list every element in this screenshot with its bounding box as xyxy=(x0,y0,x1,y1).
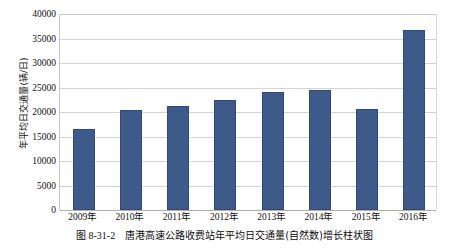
bar-slot xyxy=(202,14,249,210)
x-tick-label: 2011年 xyxy=(154,211,201,223)
bar[interactable] xyxy=(167,106,189,210)
bar-slot xyxy=(344,14,391,210)
x-tick-label: 2010年 xyxy=(106,211,153,223)
figure-number: 图 8-31-2 xyxy=(76,230,115,241)
y-axis-tick-labels: 4000035000300002500020000150001000050000 xyxy=(10,0,56,224)
x-tick-label: 2016年 xyxy=(390,211,437,223)
x-tick-label: 2013年 xyxy=(248,211,295,223)
y-tick-label: 10000 xyxy=(10,156,56,166)
bar[interactable] xyxy=(403,30,425,210)
plot-box xyxy=(59,14,437,210)
y-tick-label: 30000 xyxy=(10,58,56,68)
bar-slot xyxy=(391,14,438,210)
x-tick-label: 2015年 xyxy=(343,211,390,223)
y-tick-label: 40000 xyxy=(10,9,56,19)
y-tick-label: 0 xyxy=(10,205,56,215)
chart-plot-area: 年平均日交通量(辆/日) 400003500030000250002000015… xyxy=(0,0,449,224)
y-tick-label: 20000 xyxy=(10,107,56,117)
x-tick-label: 2009年 xyxy=(59,211,106,223)
bar-slot xyxy=(155,14,202,210)
bar-slot xyxy=(249,14,296,210)
y-tick-label: 5000 xyxy=(10,181,56,191)
bar-series xyxy=(60,14,436,210)
bar[interactable] xyxy=(356,109,378,210)
x-tick-label: 2012年 xyxy=(201,211,248,223)
figure-caption-text: 唐港高速公路收费站年平均日交通量(自然数)增长柱状图 xyxy=(125,230,373,241)
y-tick-label: 25000 xyxy=(10,83,56,93)
bar[interactable] xyxy=(214,100,236,210)
bar[interactable] xyxy=(120,110,142,210)
bar[interactable] xyxy=(262,92,284,210)
figure-caption: 图 8-31-2唐港高速公路收费站年平均日交通量(自然数)增长柱状图 xyxy=(0,229,449,242)
y-tick-label: 35000 xyxy=(10,34,56,44)
x-axis-tick-labels: 2009年2010年2011年2012年2013年2014年2015年2016年 xyxy=(59,211,437,227)
bar-slot xyxy=(296,14,343,210)
bar[interactable] xyxy=(73,129,95,210)
bar-slot xyxy=(107,14,154,210)
figure-bar-chart: 年平均日交通量(辆/日) 400003500030000250002000015… xyxy=(0,0,449,249)
x-tick-label: 2014年 xyxy=(295,211,342,223)
y-tick-label: 15000 xyxy=(10,132,56,142)
bar-slot xyxy=(60,14,107,210)
bar[interactable] xyxy=(309,90,331,210)
